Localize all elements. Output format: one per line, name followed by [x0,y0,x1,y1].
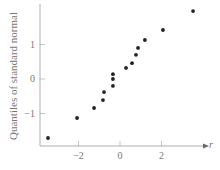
data-point [102,90,106,94]
y-tick-label: 0 [20,73,35,84]
data-point [136,46,140,50]
y-axis-label: Quantiles of standard normal [7,11,19,141]
x-tick-label: −2 [73,150,85,161]
data-point [111,72,115,76]
data-point [124,66,128,70]
x-tick-label: 2 [156,150,168,161]
data-point [111,77,115,81]
axes [40,4,209,149]
data-point [101,98,105,102]
data-point [46,136,50,140]
data-point [161,28,165,32]
scatter-plot [0,0,220,170]
data-point [92,106,96,110]
x-axis-label: r [209,139,213,150]
y-ticks [40,45,45,114]
x-ticks [79,141,162,146]
x-tick-label: 0 [114,150,126,161]
data-point [111,84,115,88]
data-point [191,9,195,13]
data-point [75,116,79,120]
y-tick-label: 1 [20,39,35,50]
data-point [134,53,138,57]
data-point [143,38,147,42]
data-point [130,61,134,65]
data-points [46,9,195,140]
y-tick-label: −1 [20,108,35,119]
